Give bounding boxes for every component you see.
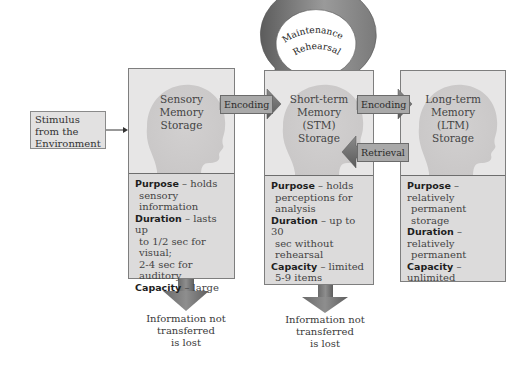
duration-row: Duration – relatively — [407, 226, 499, 249]
ltm-store: Long-term Memory (LTM) Storage Purpose –… — [400, 70, 506, 282]
title-line: (STM) — [265, 119, 373, 132]
purpose-row: Purpose – holds — [271, 180, 367, 192]
caption-line: Information not — [136, 313, 236, 325]
title-line: Sensory — [129, 93, 234, 106]
capacity-text: – large — [184, 282, 218, 293]
title-line: Memory — [401, 106, 505, 119]
purpose-label: Purpose — [271, 180, 315, 191]
stm-info: Purpose – holds perceptions for analysis… — [265, 176, 373, 284]
purpose-label: Purpose — [407, 180, 451, 191]
purpose-label: Purpose — [135, 178, 179, 189]
stimulus-arrow — [106, 127, 128, 133]
stimulus-line: Environment — [35, 138, 101, 150]
capacity-row: Capacity – large — [135, 282, 228, 294]
purpose-text: – holds — [318, 180, 353, 191]
purpose-cont: perceptions for — [271, 192, 367, 204]
title-line: Memory — [129, 106, 234, 119]
lost-caption-stm: Information not transferred is lost — [275, 314, 375, 350]
duration-cont: sec without rehearsal — [271, 238, 367, 261]
capacity-label: Capacity — [407, 261, 453, 272]
sensory-info: Purpose – holds sensory information Dura… — [129, 174, 234, 278]
title-line: Storage — [401, 132, 505, 145]
purpose-row: Purpose – relatively — [407, 180, 499, 203]
ltm-info: Purpose – relatively permanent storage D… — [401, 176, 505, 281]
purpose-cont: sensory information — [135, 190, 228, 213]
purpose-cont: analysis — [271, 203, 367, 215]
sensory-title: Sensory Memory Storage — [129, 93, 234, 132]
capacity-cont: 5-9 items — [271, 272, 367, 284]
purpose-cont: permanent storage — [407, 203, 499, 226]
encoding-label-1: Encoding — [220, 95, 273, 114]
duration-label: Duration — [407, 226, 454, 237]
caption-line: transferred — [275, 326, 375, 338]
stimulus-line: from the — [35, 126, 101, 138]
caption-line: is lost — [136, 337, 236, 349]
stimulus-box: Stimulus from the Environment — [30, 111, 106, 149]
caption-line: is lost — [275, 338, 375, 350]
capacity-row: Capacity – unlimited — [407, 261, 499, 284]
sensory-header: Sensory Memory Storage — [129, 69, 234, 174]
title-line: (LTM) — [401, 119, 505, 132]
purpose-row: Purpose – holds — [135, 178, 228, 190]
capacity-label: Capacity — [271, 261, 317, 272]
lost-arrow-stm — [302, 285, 348, 313]
duration-cont: permanent — [407, 249, 499, 261]
stimulus-line: Stimulus — [35, 114, 101, 126]
capacity-row: Capacity – limited — [271, 261, 367, 273]
title-line: Long-term — [401, 93, 505, 106]
purpose-text: – holds — [182, 178, 217, 189]
lost-caption-sensory: Information not transferred is lost — [136, 313, 236, 349]
retrieval-label: Retrieval — [357, 143, 409, 162]
duration-label: Duration — [135, 213, 182, 224]
duration-row: Duration – lasts up — [135, 213, 228, 236]
duration-label: Duration — [271, 215, 318, 226]
duration-cont: 2-4 sec for auditory — [135, 259, 228, 282]
title-line: Storage — [129, 119, 234, 132]
caption-line: transferred — [136, 325, 236, 337]
capacity-text: – limited — [320, 261, 364, 272]
caption-line: Information not — [275, 314, 375, 326]
sensory-memory-store: Sensory Memory Storage Purpose – holds s… — [128, 68, 235, 279]
encoding-label-2: Encoding — [357, 95, 410, 114]
capacity-label: Capacity — [135, 282, 181, 293]
ltm-title: Long-term Memory (LTM) Storage — [401, 93, 505, 145]
duration-cont: to 1/2 sec for visual; — [135, 236, 228, 259]
duration-row: Duration – up to 30 — [271, 215, 367, 238]
ltm-header: Long-term Memory (LTM) Storage — [401, 71, 505, 176]
